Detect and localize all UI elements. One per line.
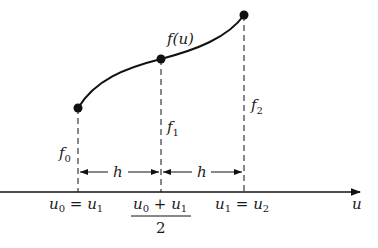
label-f0: f0 bbox=[58, 144, 71, 164]
spacing-h-right: h bbox=[163, 163, 242, 181]
svg-text:h: h bbox=[113, 163, 123, 181]
point-f2 bbox=[240, 11, 249, 20]
svg-text:2: 2 bbox=[156, 219, 166, 237]
tick-label-midpoint: u0 + u1 2 bbox=[131, 195, 191, 237]
point-f0 bbox=[74, 104, 83, 113]
label-f2: f2 bbox=[250, 96, 263, 116]
point-f1 bbox=[157, 55, 166, 64]
label-f1: f1 bbox=[166, 118, 179, 138]
axis-label-u: u bbox=[352, 195, 362, 213]
tick-label-u0: u0 = u1 bbox=[49, 195, 103, 214]
tick-label-u2: u1 = u2 bbox=[215, 195, 269, 214]
interpolation-diagram: h h f(u) f0 f1 f2 u u0 = u1 u0 + u1 2 u1… bbox=[0, 0, 378, 248]
svg-text:u0 + u1: u0 + u1 bbox=[133, 195, 187, 214]
curve-label: f(u) bbox=[166, 30, 194, 48]
spacing-h-left: h bbox=[80, 163, 159, 181]
svg-text:h: h bbox=[197, 163, 207, 181]
